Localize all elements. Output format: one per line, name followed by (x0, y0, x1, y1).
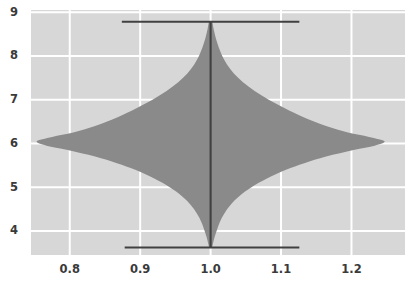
x-tick-label: 1.0 (200, 262, 220, 276)
y-tick-label: 9 (10, 5, 18, 19)
x-tick-label: 0.9 (130, 262, 150, 276)
x-tick-label: 0.8 (60, 262, 80, 276)
violin-plot-figure: 456789 0.80.91.01.11.2 (0, 0, 412, 304)
violin-plot-canvas: 456789 0.80.91.01.11.2 (0, 0, 412, 304)
y-tick-label: 5 (10, 180, 18, 194)
x-tick-label: 1.2 (341, 262, 361, 276)
y-tick-label: 7 (10, 92, 18, 106)
y-tick-label: 8 (10, 48, 18, 62)
y-tick-label: 6 (10, 136, 18, 150)
x-tick-label: 1.1 (271, 262, 291, 276)
y-tick-label: 4 (10, 223, 18, 237)
